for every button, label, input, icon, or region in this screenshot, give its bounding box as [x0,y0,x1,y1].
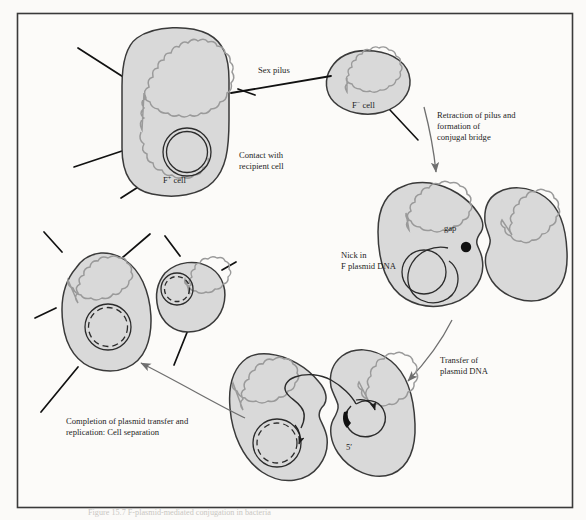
conjugation-figure: F+ cell F− cell Sex pilus Contact with r… [0,0,586,520]
svg-text:recipient cell: recipient cell [239,161,284,171]
conjugation-diagram: F+ cell F− cell Sex pilus Contact with r… [0,0,586,520]
f-plus-cell-label: F+ cell [163,174,186,185]
svg-text:plasmid DNA: plasmid DNA [440,366,489,376]
figure-caption-clipped: Figure 15.7 F-plasmid-mediated conjugati… [0,509,586,520]
contact-with-recipient-label: Contact with recipient cell [239,150,284,171]
svg-text:Nick in: Nick in [341,250,367,260]
figure-caption-text: Figure 15.7 F-plasmid-mediated conjugati… [88,509,271,517]
svg-text:Transfer of: Transfer of [440,355,478,365]
f-minus-cell-label: F− cell [352,99,375,110]
gap-label: gap [444,223,456,233]
svg-text:F plasmid DNA: F plasmid DNA [341,261,397,271]
five-prime-label: 5′ [346,442,352,452]
donor-cell-membrane [122,28,229,196]
nick-point-dot [461,242,471,252]
svg-text:Completion of plasmid transfer: Completion of plasmid transfer and [66,416,189,426]
svg-text:conjugal bridge: conjugal bridge [437,132,491,142]
svg-text:Retraction of pilus and: Retraction of pilus and [437,110,516,120]
svg-text:Contact with: Contact with [239,150,284,160]
sex-pilus-label: Sex pilus [258,65,290,75]
svg-text:formation of: formation of [437,121,480,131]
svg-text:replication: Cell separation: replication: Cell separation [66,427,160,437]
